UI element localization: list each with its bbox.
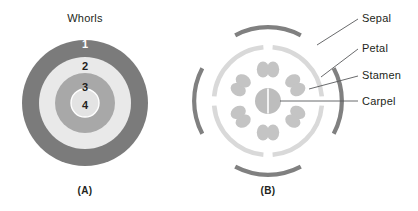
- floral-diagram-figure: Whorls 1 2 3 4 (A) Sepal Petal Stamen Ca…: [0, 0, 418, 211]
- figure-canvas: [0, 0, 418, 211]
- leader-line-petal: [321, 49, 358, 77]
- sepal-arc-top: [235, 27, 301, 35]
- panel-b-caption: (B): [196, 185, 340, 196]
- label-stamen: Stamen: [362, 69, 401, 81]
- label-carpel: Carpel: [362, 95, 396, 107]
- panel-a-caption: (A): [0, 185, 170, 196]
- leader-line-sepal: [317, 19, 358, 45]
- sepal-arc-bottom: [235, 167, 301, 175]
- carpel: [255, 88, 281, 114]
- stamen-2: [283, 72, 308, 99]
- whorls-title: Whorls: [0, 12, 170, 24]
- whorl-label-1: 1: [70, 38, 100, 50]
- stamen-4: [257, 125, 279, 141]
- label-sepal: Sepal: [362, 12, 391, 24]
- whorl-label-3: 3: [70, 81, 100, 93]
- label-petal: Petal: [362, 42, 388, 54]
- stamen-5: [228, 103, 253, 130]
- stamen-6: [228, 72, 253, 99]
- sepal-arc-left: [194, 68, 202, 134]
- whorl-label-4: 4: [70, 99, 100, 111]
- panel-b-diagram: [194, 19, 358, 175]
- whorl-label-2: 2: [70, 60, 100, 72]
- stamen-3: [283, 103, 308, 130]
- stamen-1: [257, 62, 279, 78]
